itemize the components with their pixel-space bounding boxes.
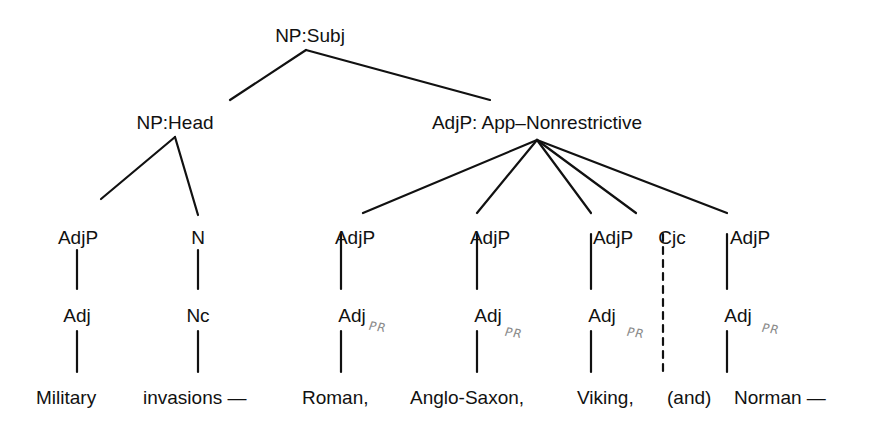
node-adj-norman: Adj: [724, 306, 751, 325]
edge-nphead-n: [175, 137, 198, 215]
edge-app-adjp2: [477, 140, 537, 213]
word-anglo-saxon: Anglo-Saxon,: [410, 388, 524, 407]
edge-app-adjp1: [363, 140, 537, 213]
tree-edges: [0, 0, 888, 430]
node-adj-military: Adj: [63, 306, 90, 325]
word-and: (and): [667, 388, 711, 407]
word-invasions: invasions —: [143, 388, 247, 407]
edge-app-cjc: [537, 140, 636, 213]
syntax-tree-diagram: NP:Subj NP:Head AdjP: App–Nonrestrictive…: [0, 0, 888, 430]
node-adj-anglosaxon: Adj: [474, 306, 501, 325]
annotation-pr-norman: PR: [761, 321, 780, 337]
node-np-head: NP:Head: [136, 113, 213, 132]
node-n: N: [191, 228, 205, 247]
node-adjp-viking: AdjP: [593, 228, 633, 247]
node-cjc: Cjc: [658, 228, 685, 247]
word-military: Military: [36, 388, 96, 407]
edge-npsubj-nphead: [230, 50, 306, 100]
word-roman: Roman,: [302, 388, 369, 407]
word-norman: Norman —: [734, 388, 826, 407]
edge-app-adjp4: [537, 140, 727, 213]
word-viking: Viking,: [577, 388, 634, 407]
node-adj-roman: Adj: [338, 306, 365, 325]
node-adjp-roman: AdjP: [335, 228, 375, 247]
annotation-pr-roman: PR: [368, 319, 387, 335]
node-adjp-app-nonrestrictive: AdjP: App–Nonrestrictive: [432, 113, 642, 132]
edge-nphead-adjp: [101, 137, 175, 199]
annotation-pr-viking: PR: [626, 325, 645, 341]
node-adjp-anglosaxon: AdjP: [470, 228, 510, 247]
node-adjp-military: AdjP: [58, 228, 98, 247]
annotation-pr-anglosaxon: PR: [504, 325, 523, 341]
node-adj-viking: Adj: [588, 306, 615, 325]
edge-npsubj-adjp-app: [306, 50, 490, 100]
node-np-subj: NP:Subj: [275, 26, 345, 45]
node-adjp-norman: AdjP: [730, 228, 770, 247]
node-nc: Nc: [186, 306, 209, 325]
